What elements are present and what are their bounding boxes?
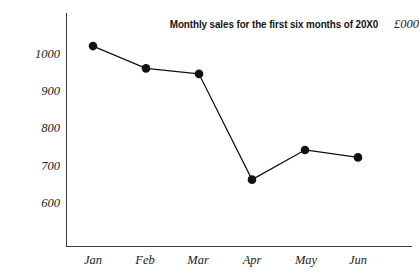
data-point-feb [142,64,151,73]
data-point-mar [195,70,204,79]
data-series-line [93,46,358,180]
line-chart: Monthly sales for the first six months o… [0,0,419,278]
data-point-jun [354,153,363,162]
data-point-jan [89,42,98,51]
plot-area [0,0,419,278]
data-markers [89,42,363,184]
data-point-apr [248,175,257,184]
data-point-may [301,146,310,155]
